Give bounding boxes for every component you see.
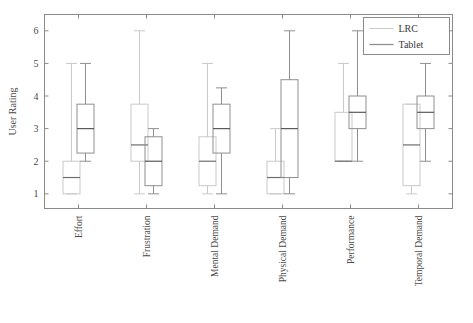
y-tick-label: 4 <box>34 91 39 102</box>
y-tick-label: 2 <box>34 156 39 167</box>
x-category-label-frustration: Frustration <box>142 215 152 257</box>
x-category-label-effort: Effort <box>74 215 84 238</box>
chart-canvas: 123456User RatingEffortFrustrationMental… <box>0 0 473 323</box>
legend-label-tablet: Tablet <box>399 39 424 50</box>
legend-label-lrc: LRC <box>399 23 419 34</box>
y-tick-label: 1 <box>34 188 39 199</box>
x-category-label-temporal-demand: Temporal Demand <box>414 215 424 286</box>
boxplot-figure: 123456User RatingEffortFrustrationMental… <box>0 0 473 323</box>
y-tick-label: 5 <box>34 58 39 69</box>
x-category-label-performance: Performance <box>346 216 356 265</box>
y-tick-label: 6 <box>34 25 39 36</box>
x-category-label-mental-demand: Mental Demand <box>210 215 220 277</box>
y-tick-label: 3 <box>34 123 39 134</box>
y-axis-title: User Rating <box>7 87 18 135</box>
x-category-label-physical-demand: Physical Demand <box>278 215 288 282</box>
